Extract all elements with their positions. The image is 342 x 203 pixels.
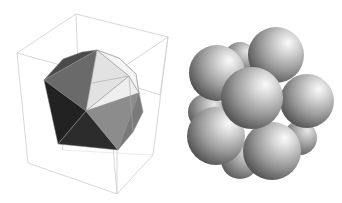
figure xyxy=(0,0,342,203)
sphere xyxy=(221,67,283,129)
sphere-cluster-panel xyxy=(0,0,342,203)
sphere xyxy=(243,122,301,180)
sphere xyxy=(280,74,334,128)
sphere-cluster xyxy=(187,27,334,180)
